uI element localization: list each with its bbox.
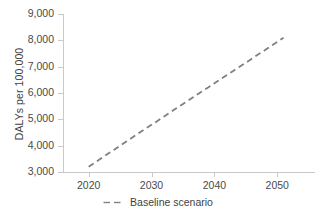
legend-dash-marker bbox=[103, 198, 125, 207]
legend-label-baseline-scenario: Baseline scenario bbox=[130, 196, 213, 208]
x-tick-label: 2030 bbox=[122, 179, 182, 191]
y-tick-mark bbox=[58, 40, 63, 41]
y-tick-mark bbox=[58, 172, 63, 173]
line-chart: DALYs per 100,000 3,0004,0005,0006,0007,… bbox=[0, 0, 316, 215]
y-tick-mark bbox=[58, 67, 63, 68]
x-tick-mark bbox=[89, 172, 90, 177]
series-line-baseline-scenario bbox=[89, 38, 284, 167]
x-tick-mark bbox=[277, 172, 278, 177]
chart-legend: Baseline scenario bbox=[0, 196, 316, 208]
x-tick-mark bbox=[214, 172, 215, 177]
y-tick-label: 7,000 bbox=[0, 60, 54, 72]
y-tick-label: 4,000 bbox=[0, 139, 54, 151]
x-tick-label: 2050 bbox=[247, 179, 307, 191]
y-tick-mark bbox=[58, 93, 63, 94]
legend-item-baseline-scenario: Baseline scenario bbox=[103, 196, 213, 208]
y-tick-label: 3,000 bbox=[0, 165, 54, 177]
x-tick-label: 2020 bbox=[59, 179, 119, 191]
y-axis-line bbox=[63, 14, 64, 173]
y-tick-label: 8,000 bbox=[0, 33, 54, 45]
x-tick-mark bbox=[152, 172, 153, 177]
x-tick-label: 2040 bbox=[184, 179, 244, 191]
y-tick-mark bbox=[58, 146, 63, 147]
y-tick-mark bbox=[58, 119, 63, 120]
y-tick-mark bbox=[58, 14, 63, 15]
y-tick-label: 5,000 bbox=[0, 112, 54, 124]
y-tick-label: 6,000 bbox=[0, 86, 54, 98]
y-tick-label: 9,000 bbox=[0, 7, 54, 19]
